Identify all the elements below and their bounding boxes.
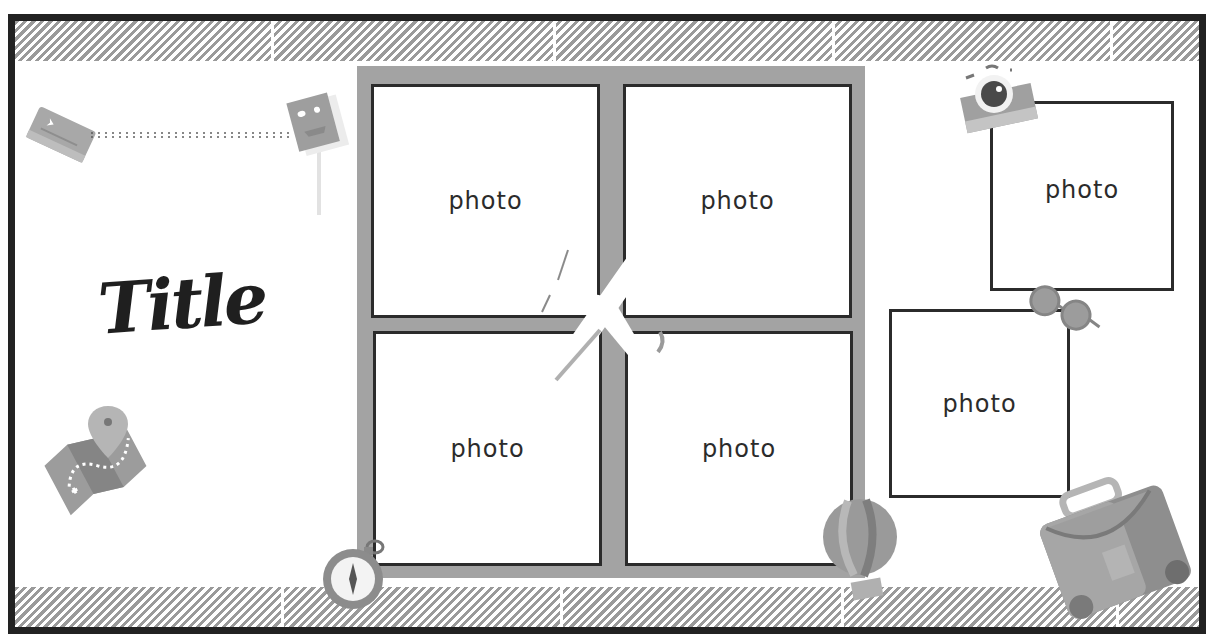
photo-label: photo xyxy=(942,390,1016,418)
bottom-stripe-divider xyxy=(560,587,563,627)
spiral-string xyxy=(90,128,290,144)
photo-label: photo xyxy=(700,187,774,215)
camera-icon xyxy=(954,58,1044,138)
compass-icon xyxy=(320,533,392,613)
hot-air-balloon-icon xyxy=(818,495,903,605)
photo-label: photo xyxy=(702,435,776,463)
photo-label: photo xyxy=(450,435,524,463)
bottom-stripe-divider xyxy=(281,587,284,627)
sunglasses-icon xyxy=(1018,283,1108,343)
top-stripe-divider xyxy=(1110,21,1113,61)
map-pin-icon xyxy=(38,400,158,520)
top-stripe-divider xyxy=(832,21,835,61)
page-title[interactable]: Title xyxy=(95,256,268,350)
photo-label: photo xyxy=(1045,176,1119,204)
passport-card-icon xyxy=(283,90,358,215)
bottom-stripe-band xyxy=(15,587,1199,627)
top-stripe-divider xyxy=(553,21,556,61)
photo-label: photo xyxy=(448,187,522,215)
airplane-icon xyxy=(520,240,680,390)
top-stripe-band xyxy=(15,21,1199,61)
suitcase-icon xyxy=(1040,475,1195,620)
top-stripe-divider xyxy=(271,21,274,61)
